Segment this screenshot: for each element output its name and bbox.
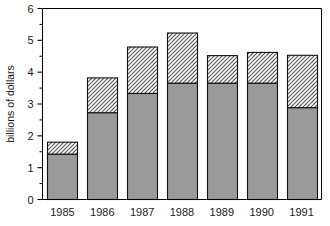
y-axis-ticks: 0123456 <box>27 3 42 206</box>
bar-segment-lower <box>208 83 238 199</box>
bar-segment-upper <box>288 55 318 108</box>
y-axis-title: billions of dollars <box>4 65 16 143</box>
x-tick-label: 1985 <box>50 206 74 218</box>
y-tick-label: 0 <box>27 194 33 206</box>
y-tick-label: 6 <box>27 3 33 15</box>
x-tick-label: 1987 <box>130 206 154 218</box>
x-tick-label: 1990 <box>249 206 273 218</box>
bar-segment-lower <box>288 108 318 200</box>
stacked-bar <box>128 47 158 199</box>
stacked-bar <box>48 142 78 199</box>
stacked-bar-chart: billions of dollars 0123456 198519861987… <box>0 0 330 226</box>
chart-canvas: billions of dollars 0123456 198519861987… <box>0 0 330 226</box>
x-tick-label: 1991 <box>289 206 313 218</box>
bar-segment-lower <box>128 93 158 199</box>
bar-segment-lower <box>168 83 198 199</box>
x-tick-label: 1986 <box>90 206 114 218</box>
stacked-bar <box>288 55 318 199</box>
y-tick-label: 3 <box>27 98 33 110</box>
bar-segment-lower <box>248 83 278 199</box>
bar-segment-upper <box>88 78 118 113</box>
stacked-bar <box>248 52 278 199</box>
x-tick-label: 1988 <box>170 206 194 218</box>
bar-segment-upper <box>168 33 198 83</box>
stacked-bar <box>168 33 198 199</box>
bar-segment-lower <box>48 154 78 199</box>
y-tick-label: 2 <box>27 130 33 142</box>
bar-segment-upper <box>48 142 78 154</box>
bar-segment-upper <box>208 56 238 84</box>
y-tick-label: 1 <box>27 162 33 174</box>
x-tick-label: 1989 <box>210 206 234 218</box>
bar-segment-upper <box>248 52 278 83</box>
y-tick-label: 4 <box>27 66 33 78</box>
bar-segment-upper <box>128 47 158 93</box>
bar-segment-lower <box>88 113 118 200</box>
stacked-bar <box>88 78 118 200</box>
stacked-bar <box>208 56 238 200</box>
x-axis-labels: 1985198619871988198919901991 <box>50 206 314 218</box>
y-axis-title-text: billions of dollars <box>4 65 16 143</box>
y-tick-label: 5 <box>27 34 33 46</box>
